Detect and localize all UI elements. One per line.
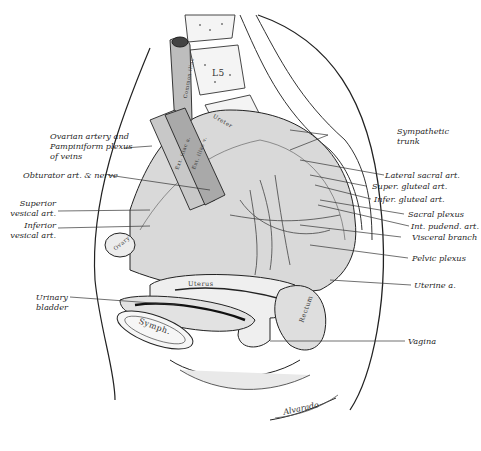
label-visceral-branch: Visceral branch (412, 232, 477, 242)
label-line: Ovarian artery and (50, 131, 126, 141)
label-line: Pelvic plexus (412, 253, 466, 263)
label-line: Obturator art. & nerve (23, 170, 118, 180)
pelvis-illustration (0, 0, 481, 451)
label-vagina: Vagina (408, 336, 436, 346)
label-urinary-bladder: Urinary bladder (30, 292, 68, 312)
label-uterus: Uterus (188, 280, 214, 288)
label-uterine-a: Uterine a. (414, 280, 456, 290)
label-line: vesical art. (10, 208, 56, 218)
label-line: Infer. gluteal art. (374, 194, 445, 204)
label-line: of veins (50, 151, 126, 161)
label-line: Vagina (408, 336, 436, 346)
label-int-pudend: Int. pudend. art. (411, 221, 479, 231)
label-super-gluteal: Super. gluteal art. (372, 181, 447, 191)
label-line: Sacral plexus (408, 209, 464, 219)
label-line: Urinary (30, 292, 68, 302)
label-pelvic-plexus: Pelvic plexus (412, 253, 466, 263)
label-superior-vesical: Superior vesical art. (10, 198, 56, 218)
label-vertebra-l5: L5 (212, 68, 225, 78)
label-line: bladder (30, 302, 68, 312)
label-sympathetic-trunk: Sympathetic trunk (397, 126, 449, 146)
label-line: Super. gluteal art. (372, 181, 447, 191)
label-line: Sympathetic (397, 126, 449, 136)
label-ovarian-artery: Ovarian artery and Pampiniform plexus of… (50, 131, 126, 161)
label-line: Pampiniform plexus (50, 141, 126, 151)
label-infer-gluteal: Infer. gluteal art. (374, 194, 445, 204)
label-inferior-vesical: Inferior vesical art. (10, 220, 56, 240)
label-line: Lateral sacral art. (385, 170, 460, 180)
label-line: Visceral branch (412, 232, 477, 242)
label-line: Uterine a. (414, 280, 456, 290)
label-line: vesical art. (10, 230, 56, 240)
label-sacral-plexus: Sacral plexus (408, 209, 464, 219)
label-line: Inferior (10, 220, 56, 230)
label-lateral-sacral: Lateral sacral art. (385, 170, 460, 180)
label-line: Superior (10, 198, 56, 208)
label-line: Int. pudend. art. (411, 221, 479, 231)
label-obturator: Obturator art. & nerve (23, 170, 118, 180)
label-line: trunk (397, 136, 449, 146)
